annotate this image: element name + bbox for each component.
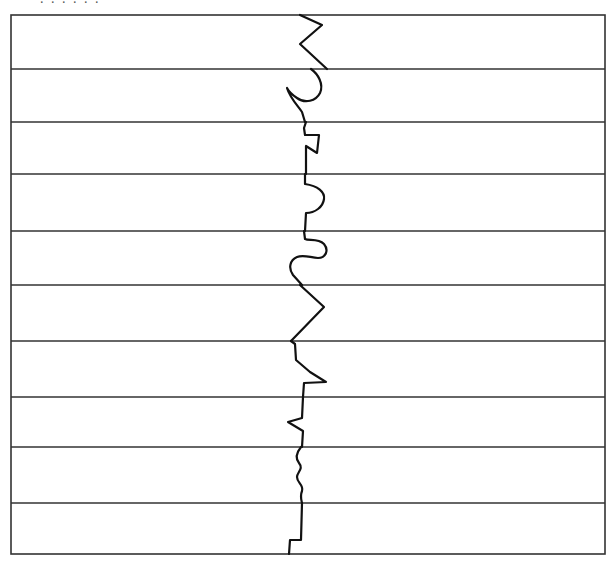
jagged-segment-5-s-curve <box>290 231 326 285</box>
jagged-segment-10-step <box>289 503 302 554</box>
banded-diagram <box>0 0 614 561</box>
jagged-segment-9-wave <box>297 447 303 503</box>
jagged-segment-3-square-notch <box>304 122 319 174</box>
jagged-segment-8-small-zigzag <box>288 397 303 447</box>
jagged-segment-2-hook-curve <box>287 69 321 122</box>
jagged-segment-7-slant-notch <box>291 341 326 397</box>
jagged-segment-1-zigzag <box>300 15 327 69</box>
jagged-segment-4-bump-curve <box>305 174 324 231</box>
jagged-segment-6-zigzag <box>291 285 324 341</box>
